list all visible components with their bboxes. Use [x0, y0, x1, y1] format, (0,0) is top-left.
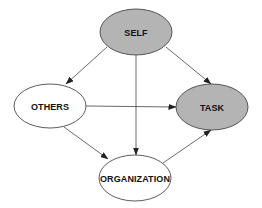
relationship-diagram: SELF OTHERS TASK ORGANIZATION: [0, 0, 262, 208]
node-others-label: OTHERS: [31, 102, 69, 112]
node-self: SELF: [100, 9, 172, 55]
node-task-label: TASK: [200, 103, 225, 113]
node-organization: ORGANIZATION: [99, 155, 171, 201]
edge-self-to-task: [166, 47, 211, 84]
node-self-label: SELF: [124, 28, 148, 38]
node-others: OTHERS: [14, 84, 86, 128]
edge-organization-to-task: [163, 130, 211, 163]
edge-others-to-organization: [64, 127, 108, 159]
edge-others-to-task: [86, 106, 176, 107]
edge-self-to-others: [66, 47, 107, 84]
node-task: TASK: [176, 84, 248, 130]
node-organization-label: ORGANIZATION: [100, 174, 170, 184]
diagram-canvas: SELF OTHERS TASK ORGANIZATION: [0, 0, 262, 208]
